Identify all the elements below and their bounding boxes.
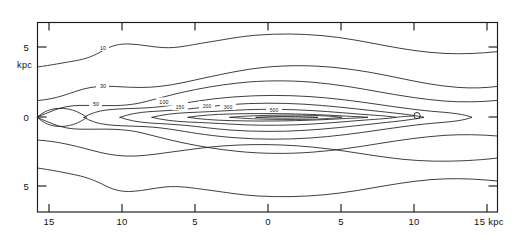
contour-figure: 15 10 5 0 5 10 15 kpc 5 kpc 0 5 10 30 50… bbox=[0, 0, 518, 246]
contour-label-group: 10 30 50 100 150 200 300 500 bbox=[89, 43, 282, 113]
contour-label-500: 500 bbox=[270, 108, 279, 113]
contour-level-50-lower bbox=[38, 118, 498, 154]
y-tick-label-minus5: 5 bbox=[23, 181, 29, 192]
y-axis-ticks-right bbox=[489, 47, 498, 186]
x-tick-label-plus5: 5 bbox=[338, 216, 344, 227]
contour-level-30-lower bbox=[38, 140, 498, 161]
x-axis-ticks-bottom bbox=[49, 204, 487, 212]
contour-label-30: 30 bbox=[100, 83, 106, 89]
x-tick-label-zero: 0 bbox=[265, 216, 271, 227]
x-tick-label-minus5: 5 bbox=[192, 216, 198, 227]
contour-label-200: 200 bbox=[203, 104, 212, 109]
x-tick-label-minus10: 10 bbox=[116, 216, 127, 227]
contour-label-150: 150 bbox=[176, 105, 185, 110]
y-axis-unit-label: kpc bbox=[17, 60, 32, 70]
contour-label-50: 50 bbox=[93, 101, 99, 107]
contour-label-100: 100 bbox=[159, 99, 168, 105]
x-tick-label-plus10: 10 bbox=[408, 216, 419, 227]
x-tick-label-minus15: 15 bbox=[43, 216, 54, 227]
y-tick-label-plus5: 5 bbox=[23, 42, 29, 53]
contour-east-extension bbox=[396, 116, 413, 117]
contour-level-500 bbox=[230, 115, 342, 119]
contour-label-300: 300 bbox=[224, 105, 233, 110]
y-tick-label-zero: 0 bbox=[23, 112, 29, 123]
x-axis-ticks-top bbox=[49, 23, 487, 31]
contour-plot-svg: 15 10 5 0 5 10 15 kpc 5 kpc 0 5 10 30 50… bbox=[0, 0, 518, 246]
contour-level-500-core bbox=[256, 116, 318, 118]
contour-label-10: 10 bbox=[100, 45, 106, 51]
x-tick-label-plus15-unit: 15 kpc bbox=[474, 216, 504, 227]
contour-level-10-lower bbox=[38, 168, 498, 197]
